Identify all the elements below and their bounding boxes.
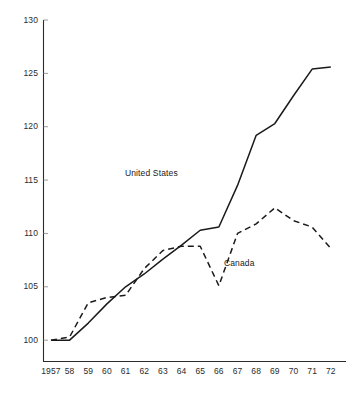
- series-line-united-states: [51, 67, 331, 340]
- y-tick-label: 130: [14, 15, 38, 25]
- line-chart: 100105110115120125130 195758596061626364…: [0, 0, 362, 398]
- y-axis-ticks: [44, 20, 49, 340]
- y-tick-label: 100: [14, 335, 38, 345]
- series-label-united-states: United States: [125, 168, 178, 178]
- y-tick-label: 125: [14, 68, 38, 78]
- series-label-canada: Canada: [224, 258, 255, 268]
- data-series-group: [51, 67, 331, 340]
- y-tick-label: 115: [14, 175, 38, 185]
- y-tick-label: 110: [14, 228, 38, 238]
- x-tick-label: 72: [316, 366, 346, 376]
- series-line-canada: [51, 208, 331, 340]
- axis-lines: [43, 20, 346, 362]
- y-tick-label: 105: [14, 281, 38, 291]
- y-tick-label: 120: [14, 121, 38, 131]
- chart-plot-area: [0, 0, 362, 398]
